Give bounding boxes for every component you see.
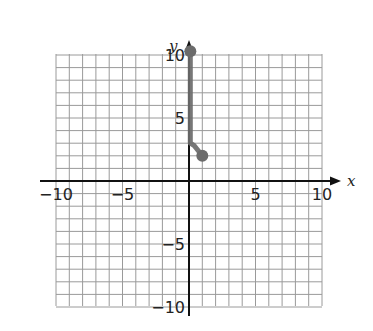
x-tick-label: −10	[39, 185, 73, 204]
x-axis-label: x	[347, 172, 356, 190]
x-tick-label: 10	[312, 185, 332, 204]
curve-line	[190, 51, 202, 156]
y-tick-label: −5	[161, 235, 185, 254]
y-tick-label: 10	[165, 46, 185, 65]
data-series	[184, 45, 208, 162]
coordinate-plane: x y −10−5510105−5−10	[0, 0, 373, 331]
y-tick-label: −10	[151, 298, 185, 317]
endpoint-dot	[196, 150, 208, 162]
endpoint-dot	[184, 45, 196, 57]
x-tick-label: −5	[111, 185, 135, 204]
y-tick-label: 5	[175, 109, 185, 128]
x-tick-label: 5	[250, 185, 260, 204]
